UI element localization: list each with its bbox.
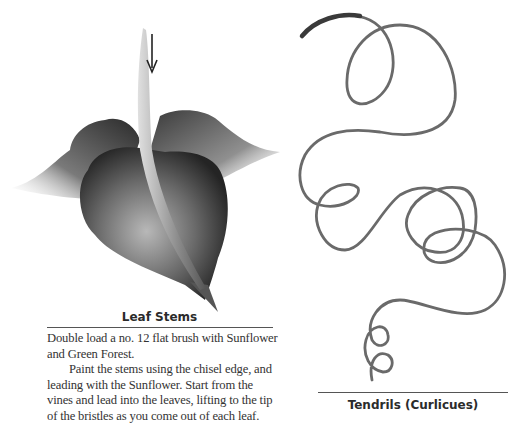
instruction-paragraph: Double load a no. 12 flat brush with Sun…: [47, 331, 279, 362]
instruction-paragraph: Paint the stems using the chisel edge, a…: [47, 362, 279, 424]
leaf-stems-caption: Leaf Stems: [47, 310, 272, 324]
tendrils-caption: Tendrils (Curlicues): [318, 398, 508, 412]
instructions-text: Double load a no. 12 flat brush with Sun…: [47, 331, 279, 424]
leaf-stem-illustration: [0, 0, 290, 320]
caption-divider: [47, 327, 273, 328]
tendril-curlicue-illustration: [290, 0, 520, 395]
caption-divider: [318, 392, 508, 393]
